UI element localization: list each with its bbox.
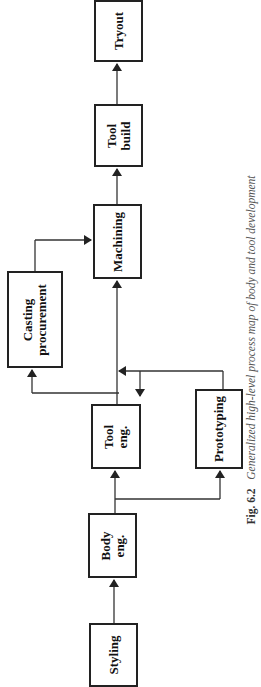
node-casting-procurement: Casting procurement: [7, 271, 63, 368]
node-tool-eng: Tool eng.: [91, 404, 141, 469]
figure-caption: Fig. 6.2 Generalized high-level process …: [245, 176, 257, 525]
caption-text: Generalized high-level process map of bo…: [245, 176, 257, 480]
node-casting-label: Casting procurement: [21, 284, 49, 356]
node-machining-label: Machining: [111, 212, 125, 272]
node-tryout-label: Tryout: [112, 12, 126, 50]
node-styling-label: Styling: [107, 635, 121, 674]
node-body-eng: Body eng.: [88, 513, 137, 578]
node-body-eng-label: Body eng.: [99, 531, 127, 560]
node-machining: Machining: [93, 204, 142, 279]
node-tryout: Tryout: [94, 0, 143, 62]
caption-fig-number: Fig. 6.2: [245, 488, 257, 524]
node-prototyping: Prototyping: [195, 389, 243, 469]
node-styling: Styling: [89, 623, 138, 687]
node-tool-eng-label: Tool eng.: [102, 424, 130, 448]
node-prototyping-label: Prototyping: [212, 396, 226, 462]
node-tool-build: Tool build: [94, 104, 143, 167]
node-tool-build-label: Tool build: [105, 121, 133, 150]
